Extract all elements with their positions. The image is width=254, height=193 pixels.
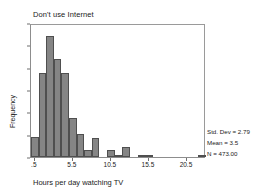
y-axis-ticks: 020406080100120 <box>0 0 30 193</box>
bars-layer <box>31 25 204 157</box>
chart-title: Don't use Internet <box>33 10 94 19</box>
histogram-chart: Don't use Internet Frequency 02040608010… <box>0 0 254 193</box>
stat-mean: Mean = 3.5 <box>207 137 254 148</box>
x-tick-label: 20.5 <box>180 161 193 168</box>
x-tick-label: 10.5 <box>104 161 117 168</box>
histogram-bar <box>69 118 77 157</box>
stat-std-dev: Std. Dev = 2.79 <box>207 126 254 137</box>
histogram-bar <box>122 147 130 157</box>
histogram-bar <box>46 36 54 157</box>
x-tick-label: 5.5 <box>67 161 76 168</box>
x-axis-title: Hours per day watching TV <box>33 178 123 187</box>
histogram-bar <box>61 73 69 157</box>
histogram-bar <box>107 150 115 157</box>
x-tick-label: .5 <box>31 161 36 168</box>
histogram-bar <box>39 73 47 157</box>
x-tick-mark <box>110 158 111 161</box>
histogram-bar <box>54 59 62 157</box>
plot-area <box>30 24 205 158</box>
histogram-bar <box>115 155 123 157</box>
x-tick-mark <box>34 158 35 161</box>
x-tick-mark <box>148 158 149 161</box>
histogram-bar <box>198 155 206 157</box>
histogram-bar <box>145 155 153 157</box>
statistics-box: Std. Dev = 2.79 Mean = 3.5 N = 473.00 <box>207 126 254 159</box>
x-tick-mark <box>72 158 73 161</box>
x-tick-mark <box>186 158 187 161</box>
histogram-bar <box>138 155 146 157</box>
histogram-bar <box>31 137 39 157</box>
histogram-bar <box>92 138 100 157</box>
histogram-bar <box>84 150 92 157</box>
stat-n: N = 473.00 <box>207 148 254 159</box>
x-tick-label: 15.5 <box>142 161 155 168</box>
histogram-bar <box>77 134 85 157</box>
